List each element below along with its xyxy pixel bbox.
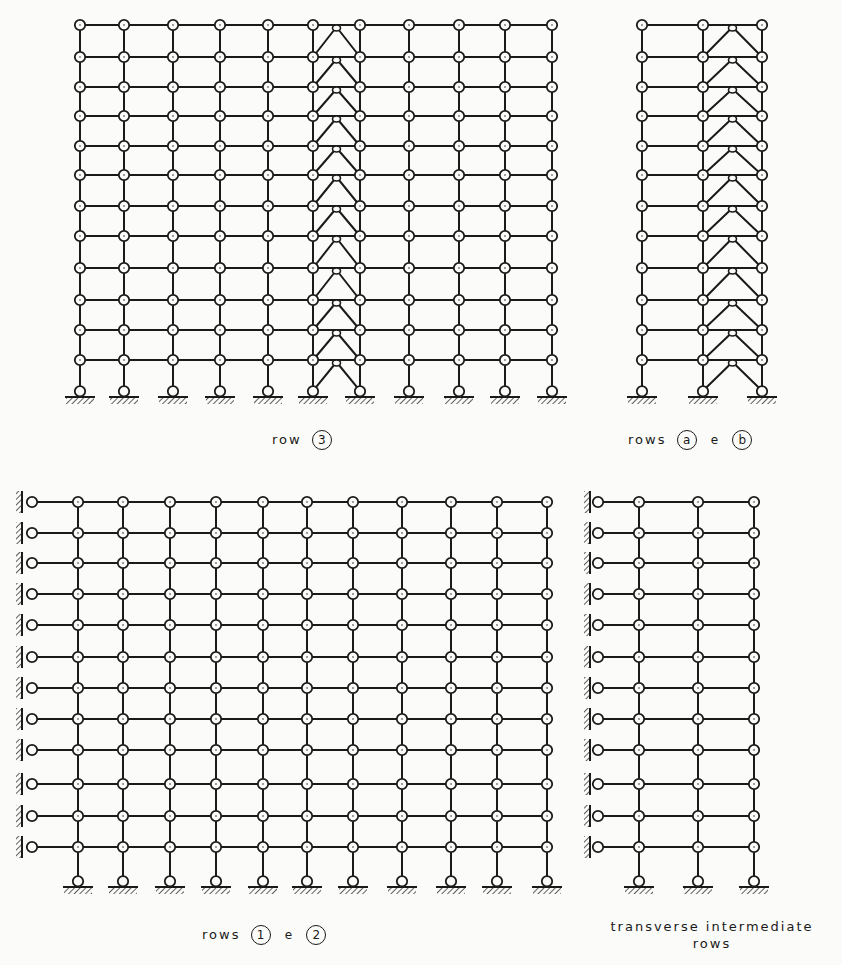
brace-hinge xyxy=(729,175,737,181)
hinge-pin xyxy=(352,749,354,751)
hinge-pin xyxy=(359,205,361,207)
hinge-pin xyxy=(702,299,704,301)
hinge-pin xyxy=(79,329,81,331)
hinge-pin xyxy=(641,205,643,207)
hinge-pin xyxy=(79,359,81,361)
hinge-pin xyxy=(641,56,643,58)
hinge-pin xyxy=(352,846,354,848)
caption-line-1: transverse intermediate xyxy=(594,918,830,935)
hinge-pin xyxy=(169,815,171,817)
hinge-pin xyxy=(79,205,81,207)
brace-hinge xyxy=(729,25,737,31)
pinned-base-support-icon xyxy=(444,386,474,404)
hinge-pin xyxy=(401,501,403,503)
hinge-pin xyxy=(458,145,460,147)
hinge-pin xyxy=(312,267,314,269)
hinge-pin xyxy=(352,656,354,658)
hinge-pin xyxy=(761,299,763,301)
hinge-pin xyxy=(79,24,81,26)
hinge-pin xyxy=(215,624,217,626)
hinge-pin xyxy=(504,174,506,176)
hinge-pin xyxy=(496,562,498,564)
hinge-pin xyxy=(267,174,269,176)
hinge-pin xyxy=(306,846,308,848)
hinge-pin xyxy=(123,86,125,88)
hinge-pin xyxy=(697,846,699,848)
hinge-pin xyxy=(638,532,640,534)
hinge-pin xyxy=(169,656,171,658)
hinge-pin xyxy=(458,299,460,301)
hinge-pin xyxy=(761,86,763,88)
hinge-pin xyxy=(450,815,452,817)
hinge-pin xyxy=(267,299,269,301)
caption-word: rows xyxy=(628,432,666,447)
hinge-pin xyxy=(352,783,354,785)
hinge-pin xyxy=(262,718,264,720)
caption-word: row xyxy=(272,432,302,447)
hinge-pin xyxy=(546,718,548,720)
hinge-pin xyxy=(638,846,640,848)
hinge-pin xyxy=(219,359,221,361)
brace-hinge xyxy=(729,268,737,274)
pinned-wall-support-icon xyxy=(16,614,37,636)
hinge-pin xyxy=(697,532,699,534)
hinge-pin xyxy=(496,783,498,785)
hinge-pin xyxy=(352,815,354,817)
frame-transverse-intermediate-rows xyxy=(584,491,769,894)
hinge-pin xyxy=(753,624,755,626)
brace-diagonal xyxy=(733,362,763,391)
hinge-pin xyxy=(306,532,308,534)
pinned-wall-support-icon xyxy=(16,583,37,605)
hinge-pin xyxy=(546,624,548,626)
brace-diagonal xyxy=(703,59,733,87)
hinge-pin xyxy=(401,687,403,689)
hinge-pin xyxy=(638,718,640,720)
caption-rows-1-2: rows 1 e 2 xyxy=(202,925,330,945)
hinge-pin xyxy=(504,235,506,237)
hinge-pin xyxy=(219,235,221,237)
pinned-wall-support-icon xyxy=(16,491,37,513)
hinge-pin xyxy=(306,656,308,658)
caption-word: rows xyxy=(202,927,240,942)
hinge-pin xyxy=(761,174,763,176)
hinge-pin xyxy=(306,749,308,751)
hinge-pin xyxy=(79,174,81,176)
pinned-wall-support-icon xyxy=(584,836,603,858)
brace-diagonal xyxy=(733,27,763,57)
hinge-pin xyxy=(352,687,354,689)
pinned-base-support-icon xyxy=(201,876,231,894)
hinge-pin xyxy=(697,656,699,658)
hinge-pin xyxy=(172,205,174,207)
hinge-pin xyxy=(79,56,81,58)
hinge-pin xyxy=(641,86,643,88)
hinge-pin xyxy=(546,687,548,689)
hinge-pin xyxy=(753,501,755,503)
hinge-pin xyxy=(122,718,124,720)
hinge-pin xyxy=(359,174,361,176)
pinned-base-support-icon xyxy=(338,876,368,894)
brace-hinge xyxy=(333,57,341,63)
hinge-pin xyxy=(458,86,460,88)
hinge-pin xyxy=(401,593,403,595)
hinge-pin xyxy=(702,267,704,269)
hinge-pin xyxy=(546,846,548,848)
hinge-pin xyxy=(551,115,553,117)
hinge-pin xyxy=(267,267,269,269)
pinned-base-support-icon xyxy=(63,876,93,894)
brace-diagonal xyxy=(703,270,733,300)
hinge-pin xyxy=(408,174,410,176)
hinge-pin xyxy=(312,359,314,361)
brace-diagonal xyxy=(733,270,763,300)
hinge-pin xyxy=(641,267,643,269)
frame-rows-1-2 xyxy=(16,491,562,894)
hinge-pin xyxy=(753,749,755,751)
brace-hinge xyxy=(729,57,737,63)
pinned-base-support-icon xyxy=(155,876,185,894)
hinge-pin xyxy=(267,329,269,331)
brace-diagonal xyxy=(733,302,763,330)
caption-joiner: e xyxy=(711,433,718,447)
hinge-pin xyxy=(641,24,643,26)
hinge-pin xyxy=(312,205,314,207)
brace-hinge xyxy=(729,300,737,306)
hinge-pin xyxy=(312,115,314,117)
